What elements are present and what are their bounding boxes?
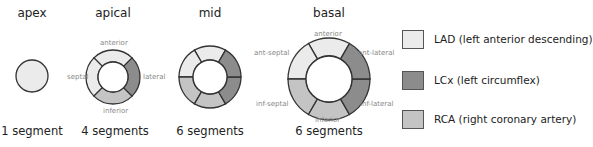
- basal-label-ant-lateral: ant-lateral: [358, 49, 394, 57]
- legend-item-rca: RCA (right coronary artery): [402, 108, 576, 130]
- lad-swatch: [402, 30, 424, 49]
- apical-ring: [86, 50, 140, 104]
- basal-label-inferior: inferior: [315, 116, 340, 124]
- legend-item-lad: LAD (left anterior descending): [402, 28, 593, 50]
- basal-segment-count: 6 segments: [294, 124, 364, 138]
- basal-label-inf-lateral: inf-lateral: [360, 100, 393, 108]
- legend-label-lcx: LCx (left circumflex): [434, 74, 540, 86]
- apex-circle: [16, 60, 48, 92]
- basal-label-ant-septal: ant-septal: [254, 49, 289, 57]
- apical-segment-count: 4 segments: [80, 124, 150, 138]
- legend-item-lcx: LCx (left circumflex): [402, 69, 540, 91]
- apex-segment-count: 1 segment: [0, 124, 64, 138]
- apical-label-inferior: inferior: [103, 107, 128, 115]
- legend-label-lad: LAD (left anterior descending): [434, 33, 593, 45]
- mid-segment-count: 6 segments: [175, 124, 245, 138]
- lcx-swatch: [402, 71, 424, 90]
- mid-ring: [179, 46, 241, 108]
- apical-label-septal: septal: [67, 73, 88, 81]
- apical-label-anterior: anterior: [100, 39, 128, 47]
- basal-label-inf-septal: inf-septal: [256, 100, 288, 108]
- basal-label-anterior: anterior: [314, 30, 342, 38]
- legend-label-rca: RCA (right coronary artery): [434, 113, 576, 125]
- apical-label-lateral: lateral: [143, 73, 165, 81]
- rca-swatch: [402, 110, 424, 129]
